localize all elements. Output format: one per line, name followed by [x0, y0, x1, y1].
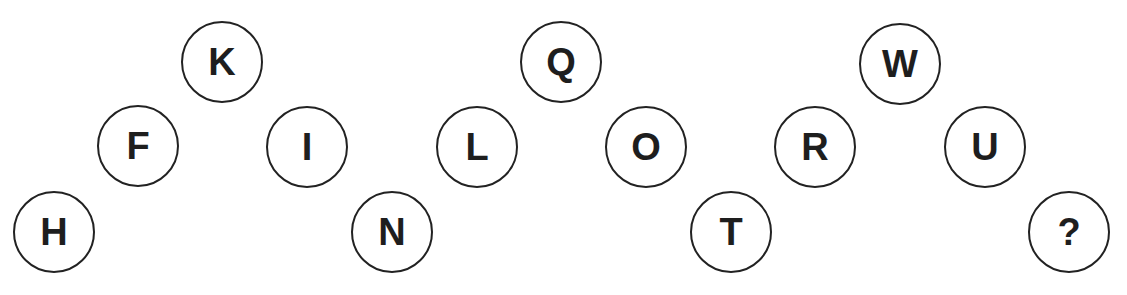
question-mark: ?: [1057, 213, 1080, 251]
circle-r: R: [774, 106, 856, 188]
circle-q: Q: [520, 21, 602, 103]
circle-h: H: [13, 191, 95, 273]
letter-o: O: [631, 128, 661, 166]
letter-k: K: [208, 43, 235, 81]
letter-i: I: [302, 128, 313, 166]
circle-i: I: [266, 106, 348, 188]
letter-w: W: [882, 45, 918, 83]
circle-f: F: [97, 105, 179, 187]
circle-t: T: [690, 191, 772, 273]
circle-o: O: [605, 106, 687, 188]
letter-u: U: [971, 128, 998, 166]
circle-n: N: [351, 191, 433, 273]
letter-r: R: [801, 128, 828, 166]
circle-k: K: [181, 21, 263, 103]
letter-t: T: [719, 213, 742, 251]
letter-l: L: [465, 128, 488, 166]
letter-sequence-puzzle: H F K I N L Q O T R W U ?: [0, 0, 1127, 295]
letter-q: Q: [546, 43, 576, 81]
circle-u: U: [944, 106, 1026, 188]
letter-n: N: [378, 213, 405, 251]
letter-h: H: [40, 213, 67, 251]
circle-l: L: [436, 106, 518, 188]
letter-f: F: [126, 127, 149, 165]
circle-w: W: [859, 23, 941, 105]
circle-question: ?: [1028, 191, 1110, 273]
